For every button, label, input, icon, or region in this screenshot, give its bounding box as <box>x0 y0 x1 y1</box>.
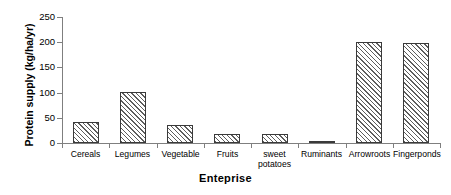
y-axis-tick-label: 150 <box>11 62 55 72</box>
x-axis-tick-label: Vegetable <box>157 149 204 159</box>
bar <box>214 134 240 143</box>
bar <box>120 92 146 143</box>
y-axis-tick-label: 200 <box>11 37 55 47</box>
x-axis-tick-label: Legumes <box>109 149 156 159</box>
x-axis-tick-label: Cereals <box>62 149 109 159</box>
y-axis-tick-label: 100 <box>11 88 55 98</box>
y-axis-tick <box>57 118 62 119</box>
x-axis-tick <box>157 144 158 148</box>
bar <box>403 43 429 143</box>
bar <box>262 134 288 143</box>
x-axis-tick <box>62 144 63 148</box>
x-axis-tick <box>109 144 110 148</box>
x-axis-tick <box>251 144 252 148</box>
y-axis-tick-label: 50 <box>11 113 55 123</box>
x-axis-title: Enteprise <box>0 172 451 184</box>
y-axis-tick <box>57 17 62 18</box>
x-axis-tick <box>393 144 394 148</box>
x-axis-tick-label: Ruminants <box>298 149 345 159</box>
bar-chart: Protein supply (kg/ha/yr) 05010015020025… <box>0 0 451 195</box>
x-axis-tick-label: sweet potatoes <box>251 149 298 169</box>
bar <box>309 141 335 143</box>
x-axis-tick <box>346 144 347 148</box>
x-axis-tick <box>440 144 441 148</box>
y-axis-tick <box>57 93 62 94</box>
y-axis-tick-labels: 050100150200250 <box>0 0 55 195</box>
y-axis-tick <box>57 42 62 43</box>
x-axis-tick <box>204 144 205 148</box>
x-axis-tick-label: Fingerponds <box>393 149 440 159</box>
x-axis-tick <box>298 144 299 148</box>
bar <box>356 42 382 143</box>
y-axis-tick-label: 0 <box>11 138 55 148</box>
bar <box>167 125 193 143</box>
y-axis-tick-label: 250 <box>11 12 55 22</box>
y-axis-tick <box>57 67 62 68</box>
plot-area <box>62 17 440 143</box>
x-axis-tick-label: Arrowroots <box>346 149 393 159</box>
x-axis-tick-label: Fruits <box>204 149 251 159</box>
bar <box>73 122 99 143</box>
